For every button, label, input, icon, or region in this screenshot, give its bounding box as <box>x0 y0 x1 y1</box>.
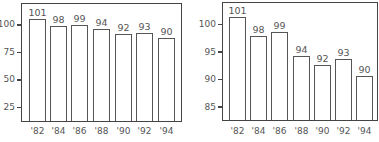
left-ytick-75 <box>17 52 22 54</box>
right-bar-chart: 100 95 90 85 101 98 99 94 92 93 90 '82 '… <box>190 0 379 142</box>
right-bar-1992 <box>335 59 352 120</box>
right-bar-1986 <box>271 32 288 120</box>
left-ytick-25 <box>17 107 22 109</box>
left-x-label: '92 <box>133 126 157 136</box>
left-bar-1982 <box>29 19 46 121</box>
right-ytick-label: 90 <box>196 74 216 84</box>
right-ytick-95 <box>218 51 223 53</box>
right-x-label: '86 <box>268 126 292 136</box>
left-ytick-label: 25 <box>0 102 15 112</box>
left-bar-1990 <box>115 34 132 121</box>
left-x-label: '94 <box>155 126 179 136</box>
left-x-label: '86 <box>68 126 92 136</box>
left-value-label: 94 <box>90 18 114 28</box>
left-ytick-label: 75 <box>0 47 15 57</box>
left-ytick-100 <box>17 24 22 26</box>
left-value-label: 99 <box>68 14 92 24</box>
right-bar-1984 <box>250 36 267 120</box>
left-bar-1994 <box>158 38 175 121</box>
right-value-label: 90 <box>353 65 377 75</box>
left-ytick-50 <box>17 79 22 81</box>
right-bar-1994 <box>356 76 373 120</box>
right-value-label: 93 <box>332 48 356 58</box>
right-ytick-label: 85 <box>196 102 216 112</box>
left-bar-1992 <box>136 33 153 121</box>
right-ytick-100 <box>218 24 223 26</box>
right-ytick-label: 95 <box>196 47 216 57</box>
right-value-label: 101 <box>226 6 250 16</box>
right-value-label: 99 <box>268 21 292 31</box>
right-ytick-85 <box>218 106 223 108</box>
left-bar-1986 <box>71 25 88 121</box>
left-value-label: 90 <box>155 27 179 37</box>
right-x-label: '94 <box>353 126 377 136</box>
right-ytick-label: 100 <box>196 19 216 29</box>
left-bar-1984 <box>50 26 67 121</box>
right-ytick-90 <box>218 79 223 81</box>
left-x-label: '88 <box>90 126 114 136</box>
right-bar-1982 <box>229 17 246 120</box>
left-bar-chart: 100 75 50 25 101 98 99 94 92 93 90 '82 '… <box>0 0 190 142</box>
right-bar-1990 <box>314 65 331 120</box>
left-value-label: 93 <box>133 22 157 32</box>
left-ytick-label: 100 <box>0 19 15 29</box>
left-ytick-label: 50 <box>0 74 15 84</box>
right-bar-1988 <box>293 56 310 120</box>
left-bar-1988 <box>93 29 110 121</box>
